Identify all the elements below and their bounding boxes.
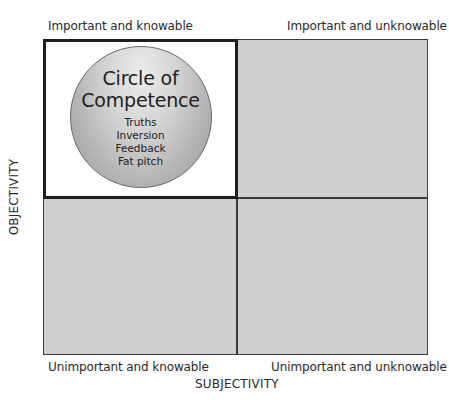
x-axis-label: SUBJECTIVITY (195, 377, 279, 391)
quadrant-grid: Circle of Competence Truths Inversion Fe… (43, 39, 428, 355)
circle-item: Inversion (71, 129, 211, 142)
label-important-knowable: Important and knowable (48, 19, 193, 33)
quadrant-important-knowable: Circle of Competence Truths Inversion Fe… (43, 39, 238, 199)
circle-title-line2: Competence (71, 89, 211, 111)
circle-item: Truths (71, 116, 211, 129)
label-unimportant-knowable: Unimportant and knowable (48, 360, 209, 374)
label-unimportant-unknowable: Unimportant and unknowable (271, 360, 447, 374)
y-axis-label: OBJECTIVITY (7, 159, 21, 236)
circle-item: Fat pitch (71, 155, 211, 168)
circle-item: Feedback (71, 142, 211, 155)
label-important-unknowable: Important and unknowable (287, 19, 447, 33)
circle-title-line1: Circle of (71, 67, 211, 89)
circle-items: Truths Inversion Feedback Fat pitch (71, 116, 211, 168)
circle-of-competence: Circle of Competence Truths Inversion Fe… (70, 46, 212, 188)
circle-title: Circle of Competence (71, 67, 211, 111)
